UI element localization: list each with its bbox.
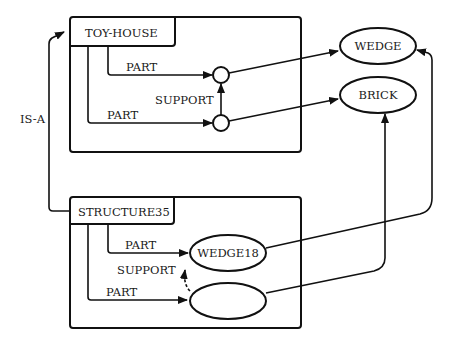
frame-title-toy-house: TOY-HOUSE — [85, 26, 158, 40]
edge-brick12-to-brick — [266, 114, 385, 293]
isa-edge — [49, 32, 70, 211]
node-wedge18-label: WEDGE18 — [197, 246, 259, 260]
part-label-top: PART — [126, 60, 157, 74]
support-label-top: SUPPORT — [155, 93, 214, 107]
node-brick: BRICK — [340, 77, 416, 113]
part-edge-brick12 — [88, 224, 187, 300]
part-edge-top — [108, 46, 212, 75]
support-label-bottom: SUPPORT — [117, 263, 176, 277]
part-node-top — [213, 67, 229, 83]
isa-label: IS-A — [20, 112, 46, 126]
semantic-network-diagram: TOY-HOUSE PART PART SUPPORT WEDGE BRICK … — [0, 0, 453, 347]
frame-structure35: STRUCTURE35 PART PART SUPPORT — [70, 197, 301, 328]
node-wedge: WEDGE — [340, 28, 416, 64]
node-wedge18: WEDGE18 — [190, 235, 266, 271]
edge-to-brick — [229, 99, 338, 121]
edge-to-wedge — [229, 51, 338, 73]
part-label-bottom: PART — [107, 108, 138, 122]
part-label-wedge18: PART — [125, 238, 156, 252]
node-wedge-label: WEDGE — [354, 39, 401, 53]
part-node-bottom — [213, 115, 229, 131]
node-brick-label: BRICK — [358, 88, 397, 102]
support-edge-dashed — [185, 270, 190, 291]
node-brick12 — [190, 283, 266, 319]
edge-wedge18-to-wedge — [266, 50, 432, 248]
frame-title-structure35: STRUCTURE35 — [78, 205, 170, 219]
frame-toy-house: TOY-HOUSE PART PART SUPPORT — [70, 17, 301, 152]
part-label-brick12: PART — [106, 285, 137, 299]
node-brick12-shape — [190, 283, 266, 319]
